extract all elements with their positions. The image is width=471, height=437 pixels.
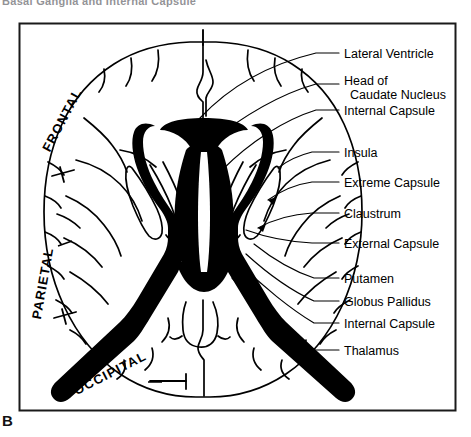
label-globus-pallidus: Globus Pallidus bbox=[344, 295, 431, 309]
ventricle-midline-slit bbox=[198, 152, 210, 272]
panel-label-b: B bbox=[2, 412, 13, 429]
figure-canvas: FRONTAL PARIETAL OCCIPITAL Lateral Ventr… bbox=[0, 0, 471, 437]
label-putamen: Putamen bbox=[344, 272, 394, 286]
label-internal-capsule-2: Internal Capsule bbox=[344, 317, 435, 331]
label-thalamus: Thalamus bbox=[344, 344, 399, 358]
label-head-of-caudate-line1: Head of bbox=[344, 74, 388, 88]
label-head-of-caudate-line2: Caudate Nucleus bbox=[350, 88, 446, 102]
label-lateral-ventricle: Lateral Ventricle bbox=[344, 47, 434, 61]
label-insula: Insula bbox=[344, 146, 377, 160]
label-claustrum: Claustrum bbox=[344, 207, 401, 221]
label-extreme-capsule: Extreme Capsule bbox=[344, 176, 440, 190]
label-external-capsule: External Capsule bbox=[344, 237, 439, 251]
label-internal-capsule-1: Internal Capsule bbox=[344, 104, 435, 118]
